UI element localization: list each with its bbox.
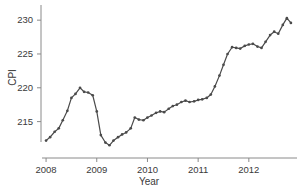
data-point-marker bbox=[104, 141, 107, 144]
data-point-marker bbox=[83, 91, 86, 94]
data-point-marker bbox=[121, 133, 124, 136]
plot-area bbox=[0, 0, 298, 193]
data-point-marker bbox=[53, 130, 56, 133]
data-point-marker bbox=[231, 46, 234, 49]
data-point-marker bbox=[252, 42, 255, 45]
data-point-marker bbox=[214, 85, 217, 88]
data-point-marker bbox=[146, 116, 149, 119]
data-point-marker bbox=[222, 63, 225, 66]
data-point-marker bbox=[260, 47, 263, 50]
data-point-marker bbox=[129, 127, 132, 130]
data-point-marker bbox=[70, 97, 73, 100]
data-point-marker bbox=[264, 40, 267, 43]
data-point-marker bbox=[290, 22, 293, 25]
data-point-marker bbox=[188, 101, 191, 104]
data-point-marker bbox=[155, 111, 158, 114]
data-point-marker bbox=[91, 94, 94, 97]
data-point-marker bbox=[239, 47, 242, 50]
data-point-marker bbox=[209, 93, 212, 96]
data-point-marker bbox=[269, 34, 272, 37]
data-point-marker bbox=[61, 119, 64, 122]
data-point-marker bbox=[180, 101, 183, 104]
data-point-marker bbox=[95, 110, 98, 113]
data-point-marker bbox=[273, 30, 276, 33]
data-point-marker bbox=[256, 45, 259, 48]
data-point-marker bbox=[281, 24, 284, 27]
series-line bbox=[45, 17, 293, 147]
data-point-marker bbox=[184, 99, 187, 102]
data-point-marker bbox=[74, 93, 77, 96]
data-point-marker bbox=[176, 103, 179, 106]
cpi-series-line bbox=[46, 18, 291, 145]
axes-group bbox=[37, 5, 297, 162]
data-point-marker bbox=[137, 118, 140, 121]
data-point-marker bbox=[167, 107, 170, 110]
data-point-marker bbox=[87, 91, 90, 94]
data-point-marker bbox=[201, 98, 204, 101]
data-point-marker bbox=[150, 114, 153, 117]
data-point-marker bbox=[99, 134, 102, 137]
data-point-marker bbox=[79, 86, 82, 89]
data-point-marker bbox=[163, 111, 166, 114]
data-point-marker bbox=[133, 116, 136, 119]
data-point-marker bbox=[197, 99, 200, 102]
data-point-marker bbox=[57, 127, 60, 130]
data-point-marker bbox=[49, 136, 52, 139]
data-point-marker bbox=[286, 17, 289, 20]
data-point-marker bbox=[193, 100, 196, 103]
data-point-marker bbox=[247, 43, 250, 46]
data-point-marker bbox=[112, 139, 115, 142]
data-point-marker bbox=[66, 109, 69, 112]
data-point-marker bbox=[45, 139, 48, 142]
data-point-marker bbox=[117, 136, 120, 139]
data-point-marker bbox=[108, 144, 111, 147]
data-point-marker bbox=[171, 105, 174, 108]
data-point-marker bbox=[142, 119, 145, 122]
data-point-marker bbox=[159, 110, 162, 113]
data-point-marker bbox=[218, 74, 221, 77]
cpi-line-chart: CPI Year 2152202252302008200920102011201… bbox=[0, 0, 298, 193]
data-point-marker bbox=[205, 97, 208, 100]
data-point-marker bbox=[226, 53, 229, 56]
data-point-marker bbox=[235, 47, 238, 50]
data-point-marker bbox=[125, 131, 128, 134]
data-point-marker bbox=[277, 32, 280, 35]
data-point-marker bbox=[243, 45, 246, 48]
